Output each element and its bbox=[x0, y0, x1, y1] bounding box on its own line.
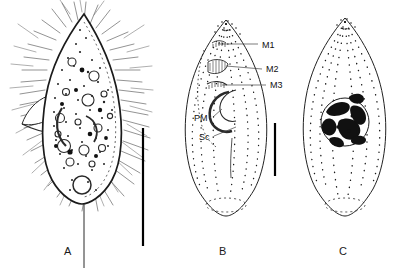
membranelle-1 bbox=[212, 41, 226, 48]
label-m2: M2 bbox=[266, 64, 279, 74]
label-m3: M3 bbox=[270, 80, 283, 90]
panel-a-drawing bbox=[10, 0, 153, 268]
panel-letter-b: B bbox=[219, 245, 227, 257]
label-m1: M1 bbox=[262, 40, 275, 50]
panel-b-contractile-vacuole bbox=[206, 198, 246, 212]
label-pm: PM bbox=[194, 113, 208, 123]
panel-letter-a: A bbox=[64, 245, 72, 257]
macronucleus bbox=[321, 94, 369, 147]
label-leader-lines bbox=[213, 44, 266, 136]
membranelle-2 bbox=[208, 60, 228, 74]
figure-plate: M1 M2 M3 PM Sc A B C bbox=[0, 0, 402, 272]
label-sc: Sc bbox=[199, 132, 210, 142]
panel-b-kineties bbox=[192, 24, 258, 196]
panel-c-drawing bbox=[303, 18, 386, 216]
panel-letter-c: C bbox=[339, 245, 347, 257]
panel-b-somatic-kinety-mark bbox=[231, 138, 232, 178]
panel-c-contractile-vacuole bbox=[325, 198, 365, 212]
